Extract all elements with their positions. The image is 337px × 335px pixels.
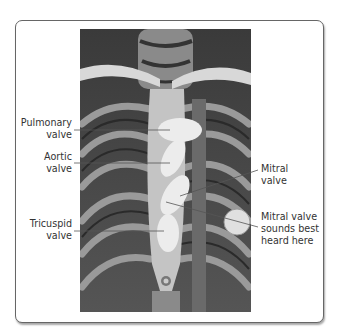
label-line: sounds best: [261, 223, 323, 235]
label-tricuspid-valve: Tricuspid valve: [14, 218, 72, 242]
label-line: valve: [14, 230, 72, 242]
label-line: Tricuspid: [14, 218, 72, 230]
label-line: heard here: [261, 235, 323, 247]
label-line: Mitral: [261, 163, 321, 175]
label-line: Mitral valve: [261, 211, 323, 223]
label-line: Aortic: [14, 151, 72, 163]
label-pulmonary-valve: Pulmonary valve: [14, 117, 72, 141]
label-line: valve: [14, 163, 72, 175]
label-line: Pulmonary: [14, 117, 72, 129]
label-mitral-valve: Mitral valve: [261, 163, 321, 187]
label-aortic-valve: Aortic valve: [14, 151, 72, 175]
label-mitral-auscultation: Mitral valve sounds best heard here: [261, 211, 323, 247]
label-line: valve: [14, 129, 72, 141]
label-line: valve: [261, 175, 321, 187]
